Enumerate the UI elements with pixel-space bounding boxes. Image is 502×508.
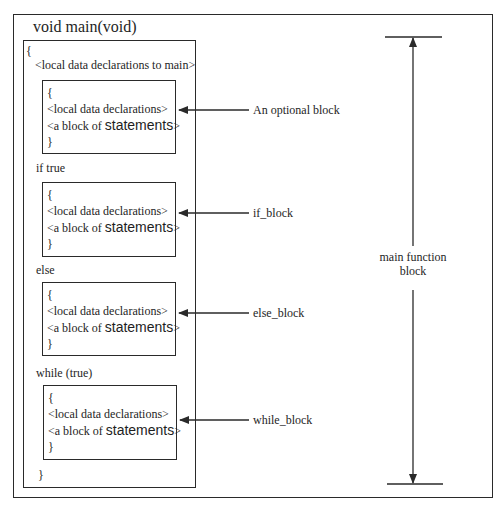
span-label-line2: block [363, 264, 463, 278]
span-label-line1: main function [363, 250, 463, 264]
main-function-span-label: main function block [363, 250, 463, 278]
